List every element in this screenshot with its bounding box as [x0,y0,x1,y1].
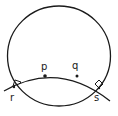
label-r: r [10,92,15,103]
point-p [43,74,47,78]
label-q: q [72,60,78,71]
point-s [98,87,100,89]
geometry-diagram: p q r s [0,0,118,116]
label-p: p [41,61,47,72]
point-r [13,86,15,88]
point-q [76,75,79,78]
label-s: s [94,92,99,103]
